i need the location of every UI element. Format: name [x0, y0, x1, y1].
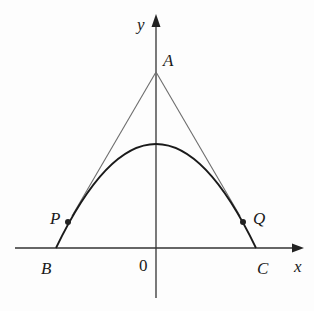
tangent-line-right [156, 72, 240, 216]
x-axis-arrow-icon [292, 244, 304, 253]
point-a-label: A [162, 51, 174, 70]
y-axis-arrow-icon [152, 14, 161, 27]
point-p-marker [65, 219, 71, 225]
point-q-label: Q [253, 209, 265, 228]
point-c-label: C [257, 259, 269, 278]
point-p-label: P [49, 209, 60, 228]
diagram-svg: y x 0 A B C P Q [0, 0, 314, 311]
diagram-canvas: y x 0 A B C P Q [0, 0, 314, 311]
x-axis-label: x [293, 257, 302, 276]
tangent-line-left [72, 72, 156, 216]
point-q-marker [240, 219, 246, 225]
origin-label: 0 [139, 256, 148, 275]
y-axis-label: y [135, 15, 145, 34]
point-b-label: B [41, 259, 52, 278]
